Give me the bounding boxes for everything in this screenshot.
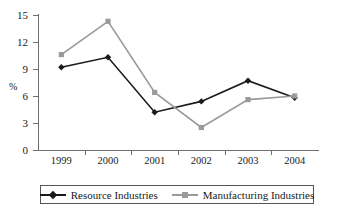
data-point-1999 [58,64,64,70]
data-point-2000 [105,19,110,24]
data-point-2002 [199,125,204,130]
legend-label-manufacturing-industries: Manufacturing Industries [203,189,315,201]
data-point-2002 [198,98,204,104]
series-line-resource-industries [61,57,294,112]
legend-marker-square-icon [172,190,198,200]
data-point-2003 [245,97,250,102]
legend-entry-manufacturing-industries: Manufacturing Industries [172,189,315,201]
data-point-2004 [292,93,297,98]
data-point-1999 [59,52,64,57]
legend-entry-resource-industries: Resource Industries [40,189,158,201]
data-point-2001 [152,90,157,95]
legend-marker-diamond-icon [40,190,66,200]
data-point-2003 [245,78,251,84]
series-plot [0,0,338,213]
series-line-manufacturing-industries [61,21,294,127]
chart-legend: Resource Industries Manufacturing Indust… [40,185,314,204]
line-chart: % 03691215 199920002001200220032004 Reso… [0,0,338,213]
legend-label-resource-industries: Resource Industries [71,189,158,201]
